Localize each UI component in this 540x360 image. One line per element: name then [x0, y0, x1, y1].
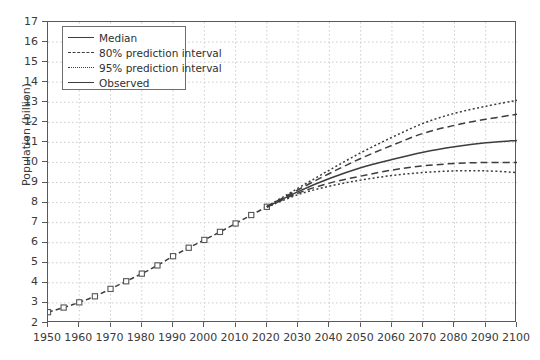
x-axis-tick-label: 2100: [496, 332, 536, 343]
data-point-marker: [77, 300, 82, 305]
y-axis-tick-label: 10: [8, 156, 38, 167]
y-axis-tick-label: 12: [8, 116, 38, 127]
y-axis-tick-label: 3: [8, 296, 38, 307]
y-axis-tick-label: 15: [8, 56, 38, 67]
y-axis-tick-label: 5: [8, 256, 38, 267]
series-line: [267, 162, 517, 207]
y-axis-tick-label: 7: [8, 216, 38, 227]
chart-legend: Median80% prediction interval95% predict…: [62, 26, 186, 90]
y-axis-tick-label: 4: [8, 276, 38, 287]
data-point-marker: [233, 221, 238, 226]
legend-item-label: Observed: [99, 78, 150, 89]
data-point-marker: [249, 212, 254, 217]
series-line: [267, 140, 517, 206]
y-axis-tick-label: 11: [8, 136, 38, 147]
data-point-marker: [155, 263, 160, 268]
legend-item-3: Observed: [68, 76, 180, 90]
y-axis-tick-label: 8: [8, 196, 38, 207]
legend-item-label: 95% prediction interval: [99, 63, 222, 74]
data-point-marker: [186, 245, 191, 250]
y-axis-tick-label: 2: [8, 317, 38, 328]
y-axis-tick-label: 9: [8, 176, 38, 187]
data-point-marker: [92, 294, 97, 299]
y-axis-tick-label: 17: [8, 16, 38, 27]
legend-line-swatch-icon: [68, 33, 94, 43]
data-point-marker: [124, 279, 129, 284]
data-point-marker: [61, 305, 66, 310]
legend-item-0: Median: [68, 31, 180, 45]
y-axis-tick-label: 16: [8, 36, 38, 47]
data-point-marker: [48, 310, 51, 315]
y-axis-tick-label: 6: [8, 236, 38, 247]
population-projection-chart: Population (billion) 2345678910111213141…: [0, 0, 540, 360]
y-axis-tick-label: 13: [8, 96, 38, 107]
legend-line-swatch-icon: [68, 48, 94, 58]
data-point-marker: [217, 229, 222, 234]
legend-item-label: 80% prediction interval: [99, 48, 222, 59]
data-point-marker: [139, 271, 144, 276]
legend-line-swatch-icon: [68, 63, 94, 73]
legend-item-2: 95% prediction interval: [68, 61, 180, 75]
legend-item-1: 80% prediction interval: [68, 46, 180, 60]
data-point-marker: [202, 237, 207, 242]
legend-item-label: Median: [99, 33, 137, 44]
y-axis-tick-label: 14: [8, 76, 38, 87]
data-point-marker: [170, 254, 175, 259]
series-line: [267, 100, 517, 206]
legend-line-swatch-icon: [68, 78, 94, 88]
data-point-marker: [108, 286, 113, 291]
